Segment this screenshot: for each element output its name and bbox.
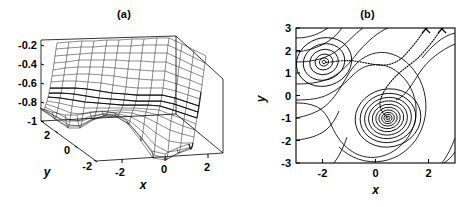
panel-b-y-tick-1: 2	[285, 45, 291, 57]
panel-b-y-tick-0: 3	[285, 22, 291, 34]
panel-b-y-axis: 3 2 1 0 -1 -2 -3 y	[254, 22, 300, 169]
y-tick-0: 2	[44, 129, 50, 141]
panel-b-svg: 3 2 1 0 -1 -2 -3 y -2 0 2 x	[236, 0, 471, 207]
panel-a-surface-plot: (a)	[0, 0, 236, 207]
y-tick-1: 0	[64, 144, 70, 156]
figure-container: (a)	[0, 0, 471, 207]
trajectory-2-start-marker	[438, 25, 446, 33]
panel-b-contour-plot: (b) 3 2 1 0 -1 -2 -3	[236, 0, 471, 207]
z-tick-3: -0.8	[18, 96, 37, 108]
panel-a-svg: -0.2 -0.4 -0.6 -0.8 -1 2 0 -2 y	[0, 0, 236, 207]
panel-a-xlabel: x	[139, 178, 148, 192]
panel-b-y-tick-2: 1	[285, 67, 291, 79]
z-axis-ticks: -0.2 -0.4 -0.6 -0.8 -1	[18, 39, 44, 127]
panel-b-y-tick-4: -1	[281, 112, 291, 124]
trajectory-group	[324, 25, 446, 118]
panel-b-x-tick-1: 0	[372, 167, 378, 179]
panel-a-ylabel: y	[43, 165, 52, 179]
z-tick-2: -0.6	[18, 77, 37, 89]
panel-b-y-tick-5: -2	[281, 135, 291, 147]
y-axis-ticks: 2 0 -2 y	[43, 129, 97, 179]
y-tick-2: -2	[82, 160, 92, 172]
z-tick-0: -0.2	[18, 39, 37, 51]
x-tick-0: -2	[115, 166, 125, 178]
trajectory-1-path	[324, 28, 426, 65]
z-tick-4: -1	[27, 115, 37, 127]
panel-b-x-tick-2: 2	[425, 167, 431, 179]
panel-b-ylabel: y	[254, 94, 268, 103]
panel-b-y-tick-6: -3	[281, 157, 291, 169]
x-tick-1: 0	[161, 163, 167, 175]
panel-b-xlabel: x	[371, 183, 380, 197]
panel-b-y-tick-3: 0	[285, 90, 291, 102]
z-tick-1: -0.4	[18, 58, 38, 70]
trajectory-1-start-marker	[422, 25, 430, 33]
x-tick-2: 2	[204, 161, 210, 173]
panel-b-x-axis: -2 0 2 x	[318, 159, 432, 197]
panel-b-x-tick-0: -2	[318, 167, 328, 179]
surface-mesh	[40, 38, 206, 160]
contour-lines	[290, 28, 455, 163]
